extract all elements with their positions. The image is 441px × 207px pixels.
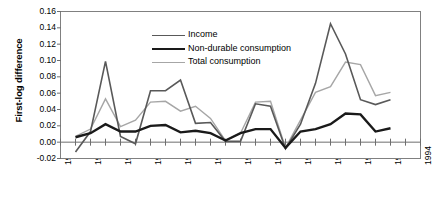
legend-line-icon-total-consumption	[152, 55, 185, 69]
chart-legend: Income Non-durable consumption Total con…	[152, 28, 291, 69]
legend-label-income: Income	[188, 28, 218, 42]
legend-item-income: Income	[152, 28, 291, 42]
legend-label-total-consumption: Total consumption	[188, 55, 261, 69]
chart-container: First-log difference 0.160.140.120.100.0…	[0, 0, 441, 207]
legend-item-total-consumption: Total consumption	[152, 55, 291, 69]
legend-line-icon-non-durable-consumption	[152, 42, 185, 56]
legend-line-icon-income	[152, 28, 185, 42]
legend-item-non-durable-consumption: Non-durable consumption	[152, 42, 291, 56]
legend-label-non-durable-consumption: Non-durable consumption	[188, 42, 291, 56]
